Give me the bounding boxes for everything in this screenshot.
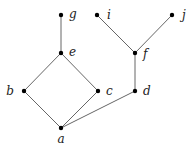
edge-a-b <box>24 91 61 128</box>
node-label-i: i <box>107 8 111 22</box>
node-label-a: a <box>57 132 64 146</box>
node-g <box>59 13 63 17</box>
nodes <box>22 13 174 130</box>
edge-f-j <box>135 15 172 53</box>
node-label-b: b <box>6 84 14 98</box>
edge-f-i <box>97 15 135 53</box>
node-j <box>170 13 174 17</box>
edges <box>24 15 172 128</box>
node-label-e: e <box>69 45 76 59</box>
node-f <box>133 51 137 55</box>
node-d <box>133 89 137 93</box>
node-label-g: g <box>69 7 77 21</box>
node-a <box>59 126 63 130</box>
node-b <box>22 89 26 93</box>
node-e <box>59 51 63 55</box>
node-i <box>95 13 99 17</box>
edge-a-c <box>61 91 98 128</box>
hasse-diagram: abcdefgij <box>0 0 192 149</box>
edge-b-e <box>24 53 61 91</box>
node-label-j: j <box>179 8 186 22</box>
node-c <box>96 89 100 93</box>
node-label-f: f <box>142 47 150 61</box>
node-label-c: c <box>106 84 113 98</box>
edge-a-d <box>61 91 135 128</box>
node-label-d: d <box>143 84 151 98</box>
edge-c-e <box>61 53 98 91</box>
